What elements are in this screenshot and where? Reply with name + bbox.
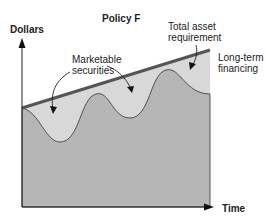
- long-term-label-line2: financing: [218, 63, 258, 74]
- marketable-label-line1: Marketable: [72, 54, 121, 65]
- marketable-label-line2: securities: [72, 65, 114, 76]
- diagram-title: Policy F: [102, 13, 140, 24]
- x-axis-label: Time: [222, 203, 245, 214]
- total-asset-label-line2: requirement: [168, 32, 221, 43]
- y-axis-arrow-icon: [19, 38, 26, 48]
- total-asset-label-line1: Total asset: [168, 21, 216, 32]
- y-axis-label: Dollars: [10, 24, 44, 35]
- long-term-label-line1: Long-term: [218, 52, 264, 63]
